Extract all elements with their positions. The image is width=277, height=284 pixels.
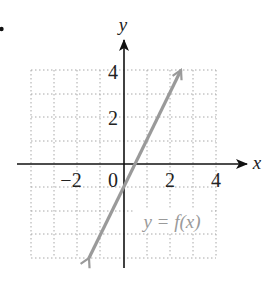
x-tick-label: 4 <box>211 169 221 191</box>
function-label: y = f(x) <box>141 211 200 233</box>
bullet-dot <box>0 27 4 31</box>
y-axis-label: y <box>117 14 128 35</box>
y-tick-label: 2 <box>108 107 118 129</box>
x-axis-label: x <box>252 152 262 173</box>
function-graph: x y −2 0 2 4 2 4 y = f(x) <box>0 0 277 284</box>
x-tick-label: −2 <box>60 169 81 191</box>
x-tick-label: 2 <box>165 169 175 191</box>
x-tick-label: 0 <box>108 169 118 191</box>
y-tick-label: 4 <box>108 61 118 83</box>
